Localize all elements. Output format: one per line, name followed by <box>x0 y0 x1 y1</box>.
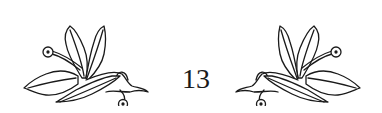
floral-ornament-right-icon <box>234 18 364 106</box>
floral-ornament-left-icon <box>20 18 150 106</box>
page-number: 13 <box>178 64 214 94</box>
